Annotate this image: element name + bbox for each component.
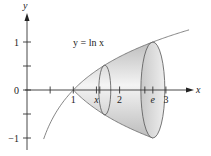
y-axis-label: y [22,0,28,11]
curve-label: y = ln x [73,37,104,48]
x-tick-label: 2 [117,94,122,105]
x-tick-label: e [151,94,156,105]
x-tick-label: 1 [71,94,76,105]
x-axis-label: x [195,84,201,95]
y-tick-label: 0 [14,85,19,96]
solid-of-revolution-figure: 1x2e310−1 x y y = ln x [0,0,211,156]
y-tick-label: −1 [8,133,19,144]
x-tick-label: 3 [163,94,168,105]
y-axis-arrow-icon [25,13,30,21]
x-tick-label: x [93,94,99,105]
y-tick-label: 1 [14,37,19,48]
x-axis-arrow-icon [186,88,194,93]
